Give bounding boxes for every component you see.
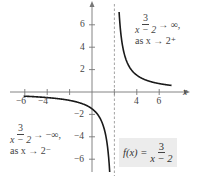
annotation-right-limit: 3 x − 2 → ∞, as x → 2⁺ — [135, 13, 180, 46]
y-tick-label: −6 — [74, 155, 84, 165]
x-tick-label: 6 — [157, 97, 162, 107]
annotation-left-limit: 3 x − 2 → −∞, as x → 2⁻ — [10, 123, 61, 156]
y-tick-label: 2 — [80, 65, 85, 75]
function-formula-box: f(x) = 3 x − 2 — [119, 138, 177, 167]
y-tick-label: −2 — [74, 110, 84, 120]
fraction: 3 x − 2 — [10, 123, 31, 145]
y-tick-label: −4 — [74, 132, 84, 142]
x-axis-label: x — [183, 88, 187, 98]
function-lhs: f(x) = — [123, 147, 147, 158]
y-tick-label: 6 — [80, 20, 85, 30]
y-tick-label: 4 — [80, 43, 85, 53]
x-tick-label: −6 — [16, 97, 26, 107]
x-tick-label: −4 — [38, 97, 48, 107]
x-tick-label: 4 — [134, 97, 139, 107]
fraction: 3 x − 2 — [150, 141, 172, 164]
fraction: 3 x − 2 — [135, 13, 156, 35]
y-axis-arrow-icon — [90, 1, 95, 7]
